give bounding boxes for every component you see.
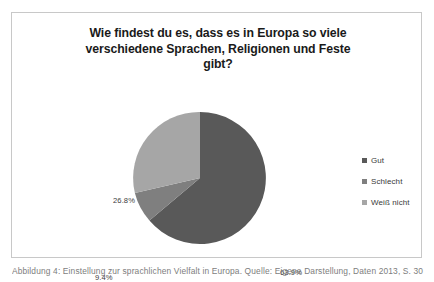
- chart-title: Wie findest du es, dass es in Europa so …: [34, 26, 402, 73]
- chart-title-line-1: Wie findest du es, dass es in Europa so …: [34, 26, 402, 42]
- chart-title-line-2: verschiedene Sprachen, Religionen und Fe…: [34, 42, 402, 58]
- legend-item-gut[interactable]: Gut: [362, 151, 432, 169]
- legend-swatch-icon-schlecht: [362, 179, 367, 184]
- pie-chart: [130, 108, 270, 248]
- legend-label-weiss-nicht: Weiß nicht: [371, 198, 410, 207]
- legend-label-schlecht: Schlecht: [371, 177, 402, 186]
- legend-swatch-icon-weiss-nicht: [362, 200, 367, 205]
- figure-caption: Abbildung 4: Einstellung zur sprachliche…: [12, 266, 432, 276]
- legend-label-gut: Gut: [371, 156, 384, 165]
- chart-legend: Gut Schlecht Weiß nicht: [362, 151, 432, 214]
- pie-chart-plot-area: 26.8% 9.4% 63.9%: [12, 73, 342, 258]
- legend-item-weiss-nicht[interactable]: Weiß nicht: [362, 193, 432, 211]
- chart-frame: Wie findest du es, dass es in Europa so …: [11, 12, 422, 258]
- legend-swatch-icon-gut: [362, 158, 367, 163]
- pie-label-weiss-nicht: 26.8%: [113, 196, 135, 205]
- chart-title-line-3: gibt?: [34, 57, 402, 73]
- legend-item-schlecht[interactable]: Schlecht: [362, 172, 432, 190]
